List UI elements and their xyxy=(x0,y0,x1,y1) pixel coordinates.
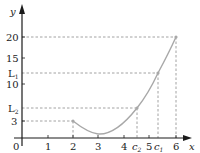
origin-label: 0 xyxy=(13,141,19,152)
y-tick-3: 3 xyxy=(11,116,17,127)
y-tick-L2: L2 xyxy=(8,103,19,115)
y-axis-label: y xyxy=(9,6,16,17)
y-tick-15: 15 xyxy=(6,53,19,64)
axes xyxy=(14,12,186,146)
point-start xyxy=(71,119,74,122)
guide-lines xyxy=(22,37,176,138)
marked-points xyxy=(71,35,177,122)
x-tick-4: 4 xyxy=(121,141,127,152)
y-tick-10: 10 xyxy=(6,79,19,90)
x-tick-5: 5 xyxy=(146,141,152,152)
x-tick-1: 1 xyxy=(45,141,51,152)
point-end xyxy=(174,35,177,38)
x-axis-label: x xyxy=(189,141,195,152)
x-tick-c2: c2 xyxy=(132,141,142,153)
y-axis-arrow-icon xyxy=(19,4,25,14)
function-graph: 0 1 2 3 4 c2 5 c1 6 x y 20 15 L1 10 L2 3 xyxy=(0,0,200,153)
point-c2-L2 xyxy=(135,106,138,109)
function-curve xyxy=(73,37,176,134)
y-tick-20: 20 xyxy=(6,32,19,43)
x-tick-6: 6 xyxy=(173,141,179,152)
x-tick-2: 2 xyxy=(70,141,76,152)
point-c1-L1 xyxy=(156,71,159,74)
x-tick-3: 3 xyxy=(95,141,101,152)
x-tick-c1: c1 xyxy=(154,141,163,153)
